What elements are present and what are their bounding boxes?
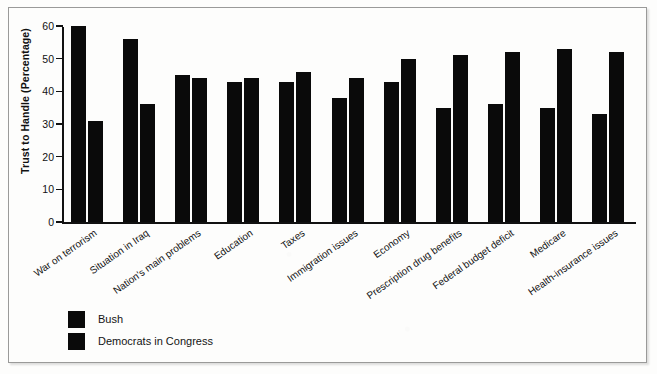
y-axis-tick-label: 0 xyxy=(14,217,54,228)
bar xyxy=(332,98,347,222)
legend-swatch-icon xyxy=(68,311,85,328)
bar xyxy=(384,82,399,222)
bar xyxy=(505,52,520,222)
y-axis-tick-label-wrapper: 30 xyxy=(8,119,54,129)
bar xyxy=(453,55,468,222)
bar xyxy=(175,75,190,222)
bar xyxy=(540,108,555,222)
bar xyxy=(227,82,242,222)
bar xyxy=(279,82,294,222)
legend-item-label: Bush xyxy=(98,314,123,325)
bar xyxy=(609,52,624,222)
chart-screenshot: 0102030405060 Trust to Handle (Percentag… xyxy=(0,0,657,374)
legend-swatch-icon xyxy=(68,333,85,350)
legend-item-label: Democrats in Congress xyxy=(98,336,213,347)
y-axis-tick-label-wrapper: 60 xyxy=(8,21,54,31)
bar xyxy=(123,39,138,222)
bar xyxy=(244,78,259,222)
bar xyxy=(436,108,451,222)
legend-item: Bush xyxy=(68,308,213,330)
y-axis-tick-label-wrapper: 0 xyxy=(8,217,54,227)
y-axis-tick-label-wrapper: 10 xyxy=(8,184,54,194)
plot-area xyxy=(62,26,635,222)
bar xyxy=(192,78,207,222)
bar xyxy=(401,59,416,222)
bar xyxy=(296,72,311,222)
x-axis-line xyxy=(62,222,636,224)
y-axis-title: Trust to Handle (Percentage) xyxy=(19,11,31,191)
y-axis-tick-label-wrapper: 20 xyxy=(8,152,54,162)
y-axis-tick-label-wrapper: 50 xyxy=(8,54,54,64)
bar xyxy=(140,104,155,222)
bar xyxy=(71,26,86,222)
bar xyxy=(488,104,503,222)
legend-item: Democrats in Congress xyxy=(68,330,213,352)
bar xyxy=(349,78,364,222)
bar xyxy=(592,114,607,222)
bar xyxy=(557,49,572,222)
bar xyxy=(88,121,103,222)
y-axis-tick-label-wrapper: 40 xyxy=(8,86,54,96)
chart-legend: BushDemocrats in Congress xyxy=(68,308,213,352)
